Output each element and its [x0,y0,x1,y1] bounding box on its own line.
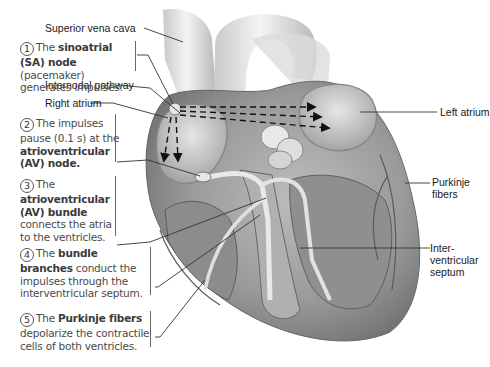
bracket-1 [135,41,136,71]
superior-vena-cava [163,9,216,100]
step-3-av-bundle: 3The atrioventricular (AV) bundle connec… [20,178,115,243]
av-node [195,172,211,182]
step-number-3: 3 [20,179,34,193]
label-left-atrium: Left atrium [440,106,490,118]
label-superior-vena-cava: Superior vena cava [45,22,135,34]
step-1-sa-node: 1The sinoatrial (SA) node (pacemaker) ge… [20,41,138,94]
label-right-atrium: Right atrium [45,97,102,109]
bracket-2 [115,114,116,162]
step-2-av-node: 2The impulses pause (0.1 s) at the atrio… [20,117,120,170]
label-interventricular-septum: Inter- ventricular septum [430,242,478,278]
bracket-4 [150,247,151,295]
step-5-purkinje-fibers: 5The Purkinje fibers depolarize the cont… [20,312,152,352]
left-atrium-chamber [299,84,376,150]
label-purkinje-fibers: Purkinje fibers [432,176,470,200]
step-number-1: 1 [20,42,34,56]
step-number-5: 5 [20,313,34,327]
bracket-3 [115,176,116,236]
step-number-4: 4 [20,248,34,262]
step-number-2: 2 [20,118,34,132]
step-4-bundle-branches: 4The bundle branches conduct the impulse… [20,247,152,300]
bracket-5 [150,311,151,347]
